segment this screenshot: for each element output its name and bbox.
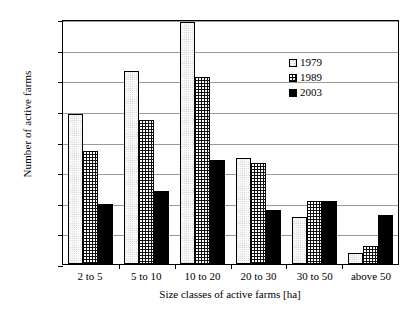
bar-1989-above-50 bbox=[363, 246, 378, 264]
bar-1979-2-to-5 bbox=[68, 114, 83, 264]
bar-group bbox=[342, 21, 398, 264]
x-axis-tick-mark bbox=[342, 264, 343, 269]
y-axis-title: Number of active farms bbox=[21, 39, 33, 209]
x-axis-category-label: 30 to 50 bbox=[287, 270, 343, 282]
bar-group bbox=[175, 21, 231, 264]
x-axis-category-labels: 2 to 55 to 1010 to 2020 to 3030 to 50abo… bbox=[62, 270, 399, 282]
legend-swatch-2003 bbox=[289, 89, 297, 97]
bar-1989-10-to-20 bbox=[195, 77, 210, 264]
bar-1979-5-to-10 bbox=[124, 71, 139, 264]
bar-group bbox=[63, 21, 119, 264]
bar-2003-5-to-10 bbox=[154, 191, 169, 265]
x-axis-category-label: 10 to 20 bbox=[174, 270, 230, 282]
legend-entry-1979: 1979 bbox=[289, 57, 322, 68]
legend-swatch-1979 bbox=[289, 59, 297, 67]
legend-label-2003: 2003 bbox=[300, 87, 322, 98]
bar-1979-30-to-50 bbox=[292, 217, 307, 264]
x-axis-category-label: 2 to 5 bbox=[62, 270, 118, 282]
x-axis-tick-mark bbox=[231, 264, 232, 269]
x-axis-tick-mark bbox=[175, 264, 176, 269]
legend-entry-1989: 1989 bbox=[289, 72, 322, 83]
y-axis-tick-mark bbox=[58, 266, 63, 267]
bars-layer bbox=[63, 21, 398, 264]
bar-1989-2-to-5 bbox=[83, 151, 98, 264]
legend-swatch-1989 bbox=[289, 74, 297, 82]
x-axis-tick-mark bbox=[286, 264, 287, 269]
x-axis-title: Size classes of active farms [ha] bbox=[55, 288, 405, 300]
bar-1979-20-to-30 bbox=[236, 158, 251, 264]
bar-chart: Number of active farms 80.00070.00060.00… bbox=[0, 0, 410, 310]
x-axis-category-label: 20 to 30 bbox=[231, 270, 287, 282]
bar-group bbox=[119, 21, 175, 264]
legend-label-1989: 1989 bbox=[300, 72, 322, 83]
plot-area: 80.00070.00060.00050.00040.00030.00020.0… bbox=[62, 20, 399, 265]
bar-2003-20-to-30 bbox=[266, 210, 281, 264]
bar-2003-30-to-50 bbox=[322, 201, 337, 264]
bar-1979-above-50 bbox=[348, 253, 363, 264]
legend-label-1979: 1979 bbox=[300, 57, 322, 68]
bar-2003-2-to-5 bbox=[98, 204, 113, 264]
bar-2003-10-to-20 bbox=[210, 160, 225, 264]
bar-2003-above-50 bbox=[378, 215, 393, 264]
x-axis-category-label: above 50 bbox=[343, 270, 399, 282]
bar-group bbox=[230, 21, 286, 264]
bar-1989-20-to-30 bbox=[251, 163, 266, 264]
bar-1989-5-to-10 bbox=[139, 120, 154, 264]
bar-1989-30-to-50 bbox=[307, 201, 322, 264]
bar-1979-10-to-20 bbox=[180, 22, 195, 264]
legend-entry-2003: 2003 bbox=[289, 87, 322, 98]
x-axis-category-label: 5 to 10 bbox=[118, 270, 174, 282]
chart-legend: 197919892003 bbox=[289, 57, 322, 98]
x-axis-tick-mark bbox=[119, 264, 120, 269]
